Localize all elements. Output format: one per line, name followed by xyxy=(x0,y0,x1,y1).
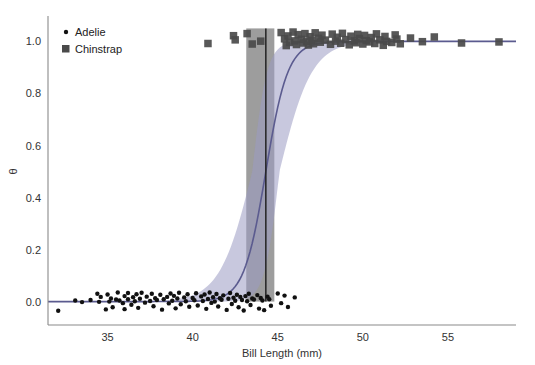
data-point-adelie xyxy=(206,297,210,301)
data-point-adelie xyxy=(73,298,77,302)
data-point-adelie xyxy=(216,304,220,308)
y-tick-label: 0.6 xyxy=(26,140,41,152)
data-point-adelie xyxy=(219,298,223,302)
data-point-adelie xyxy=(252,297,256,301)
data-point-adelie xyxy=(131,295,135,299)
x-tick-label: 40 xyxy=(187,331,199,343)
data-point-adelie xyxy=(194,291,198,295)
data-point-adelie xyxy=(262,308,266,312)
data-point-adelie xyxy=(267,297,271,301)
data-point-adelie xyxy=(105,292,109,296)
x-tick-label: 50 xyxy=(357,331,369,343)
data-point-chinstrap xyxy=(495,38,503,46)
data-point-chinstrap xyxy=(397,40,405,48)
y-axis-title: θ xyxy=(7,168,19,174)
data-point-chinstrap xyxy=(243,30,251,38)
data-point-adelie xyxy=(88,298,92,302)
data-point-adelie xyxy=(129,303,133,307)
data-point-adelie xyxy=(160,307,164,311)
data-point-adelie xyxy=(158,293,162,297)
data-point-adelie xyxy=(179,302,183,306)
data-point-adelie xyxy=(202,292,206,296)
data-point-adelie xyxy=(138,297,142,301)
data-point-adelie xyxy=(230,302,234,306)
data-point-chinstrap xyxy=(407,34,415,42)
data-point-adelie xyxy=(177,291,181,295)
data-point-adelie xyxy=(207,290,211,294)
data-point-adelie xyxy=(293,295,297,299)
data-point-adelie xyxy=(245,299,249,303)
data-point-adelie xyxy=(134,292,138,296)
data-point-adelie xyxy=(104,307,108,311)
data-point-adelie xyxy=(110,305,114,309)
data-point-adelie xyxy=(155,298,159,302)
y-tick-label: 0.2 xyxy=(26,244,41,256)
data-point-adelie xyxy=(242,308,246,312)
data-point-adelie xyxy=(151,304,155,308)
data-point-adelie xyxy=(282,293,286,297)
data-point-adelie xyxy=(122,307,126,311)
data-point-adelie xyxy=(116,290,120,294)
data-point-adelie xyxy=(136,306,140,310)
data-point-adelie xyxy=(236,305,240,309)
data-point-adelie xyxy=(187,305,191,309)
data-point-adelie xyxy=(224,308,228,312)
data-point-adelie xyxy=(109,296,113,300)
y-tick-label: 0.4 xyxy=(26,192,41,204)
data-point-adelie xyxy=(228,291,232,295)
x-tick-label: 55 xyxy=(442,331,454,343)
data-point-adelie xyxy=(185,292,189,296)
data-point-chinstrap xyxy=(419,38,427,46)
data-point-adelie xyxy=(99,295,103,299)
data-point-adelie xyxy=(248,303,252,307)
data-point-adelie xyxy=(204,307,208,311)
data-point-adelie xyxy=(240,298,244,302)
data-point-chinstrap xyxy=(431,33,439,41)
data-point-adelie xyxy=(150,292,154,296)
x-axis-title: Bill Length (mm) xyxy=(242,347,322,359)
data-point-adelie xyxy=(233,299,237,303)
scatter-plot-canvas: 3540455055 0.00.20.40.60.81.0 Bill Lengt… xyxy=(0,0,535,365)
data-point-adelie xyxy=(255,293,259,297)
data-point-adelie xyxy=(211,295,215,299)
data-point-adelie xyxy=(213,299,217,303)
data-point-adelie xyxy=(192,298,196,302)
data-point-adelie xyxy=(143,300,147,304)
data-point-adelie xyxy=(276,291,280,295)
data-point-adelie xyxy=(214,292,218,296)
data-point-chinstrap xyxy=(231,36,239,44)
data-point-adelie xyxy=(196,303,200,307)
y-tick-label: 0.0 xyxy=(26,296,41,308)
legend-label-chinstrap: Chinstrap xyxy=(75,43,122,55)
data-point-adelie xyxy=(184,299,188,303)
data-point-adelie xyxy=(279,301,283,305)
data-point-adelie xyxy=(165,295,169,299)
data-point-adelie xyxy=(170,299,174,303)
legend-label-adelie: Adelie xyxy=(75,26,106,38)
data-point-adelie xyxy=(97,300,101,304)
data-point-adelie xyxy=(133,299,137,303)
data-point-adelie xyxy=(260,298,264,302)
legend-marker-adelie xyxy=(64,30,68,34)
data-point-chinstrap xyxy=(248,40,256,48)
data-point-adelie xyxy=(56,308,60,312)
data-point-adelie xyxy=(221,293,225,297)
x-tick-label: 35 xyxy=(101,331,113,343)
data-point-chinstrap xyxy=(458,39,466,47)
data-point-adelie xyxy=(257,306,261,310)
data-point-chinstrap xyxy=(257,37,265,45)
data-point-adelie xyxy=(175,296,179,300)
data-point-adelie xyxy=(145,294,149,298)
data-point-adelie xyxy=(269,304,273,308)
chart-figure: 3540455055 0.00.20.40.60.81.0 Bill Lengt… xyxy=(0,0,535,365)
data-point-adelie xyxy=(173,306,177,310)
data-point-adelie xyxy=(121,301,125,305)
data-point-adelie xyxy=(80,300,84,304)
data-point-adelie xyxy=(122,294,126,298)
legend-marker-chinstrap xyxy=(62,45,70,53)
data-point-adelie xyxy=(286,305,290,309)
y-tick-label: 0.8 xyxy=(26,87,41,99)
data-point-adelie xyxy=(226,297,230,301)
data-point-adelie xyxy=(126,291,130,295)
data-point-adelie xyxy=(139,291,143,295)
